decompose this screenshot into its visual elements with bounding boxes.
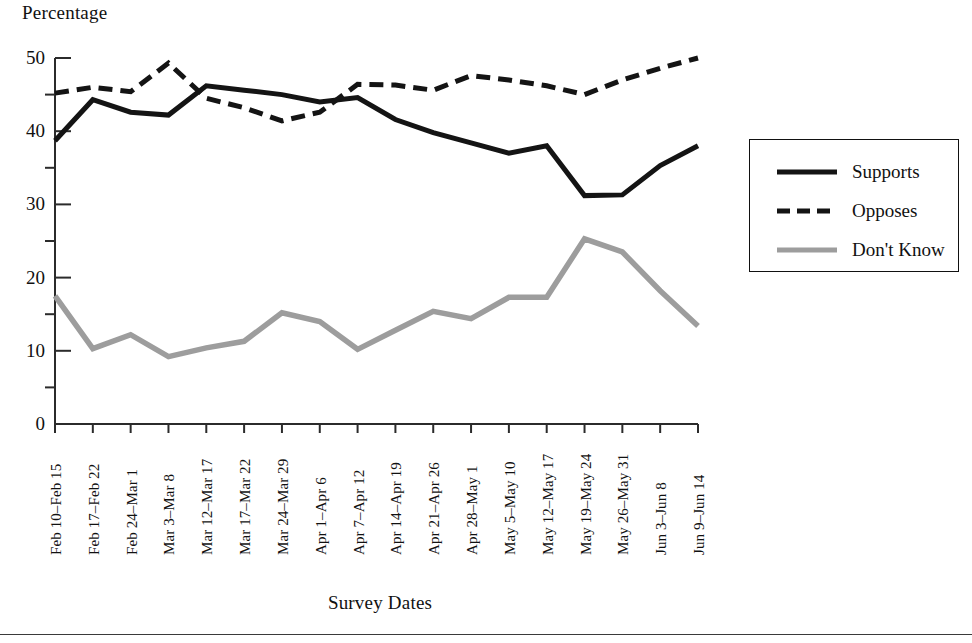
x-axis-title: Survey Dates bbox=[0, 592, 760, 614]
x-tick-label: Mar 3–Mar 8 bbox=[162, 474, 177, 555]
chart-legend: Supports Opposes Don't Know bbox=[749, 139, 959, 272]
x-tick-label: May 19–May 24 bbox=[579, 454, 594, 555]
y-tick-label: 10 bbox=[7, 341, 45, 360]
chart-plot-area bbox=[0, 0, 972, 643]
bottom-divider bbox=[0, 634, 972, 635]
legend-item-supports: Supports bbox=[750, 158, 958, 186]
legend-label-dont-know: Don't Know bbox=[852, 239, 945, 261]
x-tick-label: Mar 17–Mar 22 bbox=[238, 459, 253, 555]
y-tick-label: 30 bbox=[7, 194, 45, 213]
legend-swatch-opposes bbox=[776, 203, 838, 219]
series-line-don-t-know bbox=[55, 239, 698, 357]
y-tick-label: 0 bbox=[7, 414, 45, 433]
x-tick-label: Mar 24–Mar 29 bbox=[276, 459, 291, 555]
x-tick-label: Apr 1–Apr 6 bbox=[314, 477, 329, 555]
x-tick-label: May 12–May 17 bbox=[541, 454, 556, 555]
y-tick-label: 50 bbox=[7, 48, 45, 67]
chart-series bbox=[55, 58, 698, 357]
legend-label-opposes: Opposes bbox=[852, 200, 917, 222]
legend-item-dont-know: Don't Know bbox=[750, 236, 958, 264]
x-tick-label: Jun 3–Jun 8 bbox=[654, 482, 669, 555]
y-tick-label: 40 bbox=[7, 121, 45, 140]
series-line-supports bbox=[55, 86, 698, 196]
x-tick-label: Jun 9–Jun 14 bbox=[692, 475, 707, 555]
legend-swatch-supports bbox=[776, 164, 838, 180]
y-tick-label: 20 bbox=[7, 268, 45, 287]
x-tick-label: Mar 12–Mar 17 bbox=[200, 459, 215, 555]
legend-swatch-dont-know bbox=[776, 242, 838, 258]
x-tick-label: Feb 17–Feb 22 bbox=[87, 464, 102, 555]
x-tick-label: Feb 24–Mar 1 bbox=[125, 469, 140, 555]
x-tick-label: Apr 21–Apr 26 bbox=[427, 462, 442, 555]
x-tick-label: Feb 10–Feb 15 bbox=[49, 464, 64, 555]
x-tick-label: May 26–May 31 bbox=[616, 454, 631, 555]
chart-figure: Percentage 01020304050 Feb 10–Feb 15Feb … bbox=[0, 0, 972, 643]
legend-item-opposes: Opposes bbox=[750, 197, 958, 225]
legend-label-supports: Supports bbox=[852, 161, 920, 183]
x-tick-label: May 5–May 10 bbox=[503, 461, 518, 555]
x-tick-label: Apr 28–May 1 bbox=[465, 465, 480, 555]
x-tick-label: Apr 14–Apr 19 bbox=[389, 462, 404, 555]
x-tick-label: Apr 7–Apr 12 bbox=[352, 470, 367, 555]
